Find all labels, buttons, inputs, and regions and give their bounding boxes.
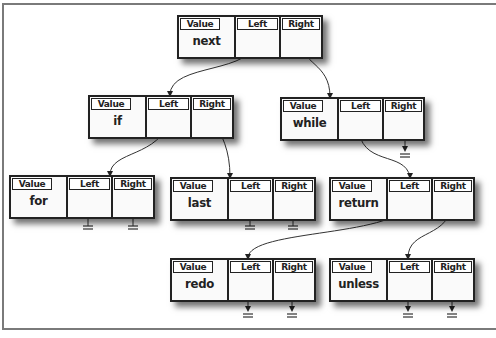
value-cell: Value for <box>11 177 68 217</box>
right-label: Right <box>275 261 313 273</box>
node-value: unless <box>331 276 386 291</box>
right-label: Right <box>193 98 231 110</box>
value-label: Value <box>12 178 52 190</box>
left-pointer-cell: Left <box>229 260 274 300</box>
node-value: return <box>331 195 386 210</box>
right-pointer-cell: Right <box>274 260 314 300</box>
value-cell: Value while <box>282 99 339 139</box>
node-redo: Value redo Left Right <box>170 258 316 302</box>
left-label: Left <box>230 180 271 192</box>
left-pointer-cell: Left <box>388 179 433 219</box>
left-pointer-cell: Left <box>339 99 384 139</box>
node-value: next <box>179 33 234 48</box>
right-pointer-cell: Right <box>113 177 153 217</box>
value-label: Value <box>91 98 131 110</box>
node-if: Value if Left Right <box>88 95 234 139</box>
right-pointer-cell: Right <box>192 97 232 137</box>
right-pointer-cell: Right <box>384 99 423 139</box>
left-pointer-cell: Left <box>68 177 113 217</box>
node-next: Value next Left Right <box>177 15 323 59</box>
right-label: Right <box>282 18 320 30</box>
value-cell: Value redo <box>172 260 229 300</box>
right-label: Right <box>275 180 313 192</box>
value-label: Value <box>180 18 220 30</box>
right-pointer-cell: Right <box>281 17 321 57</box>
left-pointer-cell: Left <box>388 260 433 300</box>
value-cell: Value unless <box>331 260 388 300</box>
value-label: Value <box>173 261 213 273</box>
value-cell: Value if <box>90 97 147 137</box>
right-pointer-cell: Right <box>274 179 314 219</box>
left-label: Left <box>230 261 271 273</box>
left-pointer-cell: Left <box>236 17 281 57</box>
node-for: Value for Left Right <box>9 175 155 219</box>
value-label: Value <box>283 100 323 112</box>
node-return: Value return Left Right <box>329 177 475 221</box>
left-pointer-cell: Left <box>229 179 274 219</box>
right-pointer-cell: Right <box>433 179 473 219</box>
left-label: Left <box>69 178 110 190</box>
value-cell: Value next <box>179 17 236 57</box>
node-value: for <box>11 193 66 208</box>
value-cell: Value last <box>172 179 229 219</box>
left-label: Left <box>389 261 430 273</box>
node-unless: Value unless Left Right <box>329 258 475 302</box>
node-value: while <box>282 115 337 130</box>
value-label: Value <box>332 180 372 192</box>
left-label: Left <box>237 18 278 30</box>
right-label: Right <box>114 178 152 190</box>
right-pointer-cell: Right <box>433 260 473 300</box>
left-label: Left <box>389 180 430 192</box>
node-while: Value while Left Right <box>280 97 425 141</box>
left-pointer-cell: Left <box>147 97 192 137</box>
left-label: Left <box>148 98 189 110</box>
value-label: Value <box>173 180 213 192</box>
node-value: redo <box>172 276 227 291</box>
left-label: Left <box>340 100 381 112</box>
right-label: Right <box>434 261 472 273</box>
value-cell: Value return <box>331 179 388 219</box>
node-value: if <box>90 113 145 128</box>
value-label: Value <box>332 261 372 273</box>
node-last: Value last Left Right <box>170 177 316 221</box>
node-value: last <box>172 195 227 210</box>
right-label: Right <box>385 100 422 112</box>
right-label: Right <box>434 180 472 192</box>
